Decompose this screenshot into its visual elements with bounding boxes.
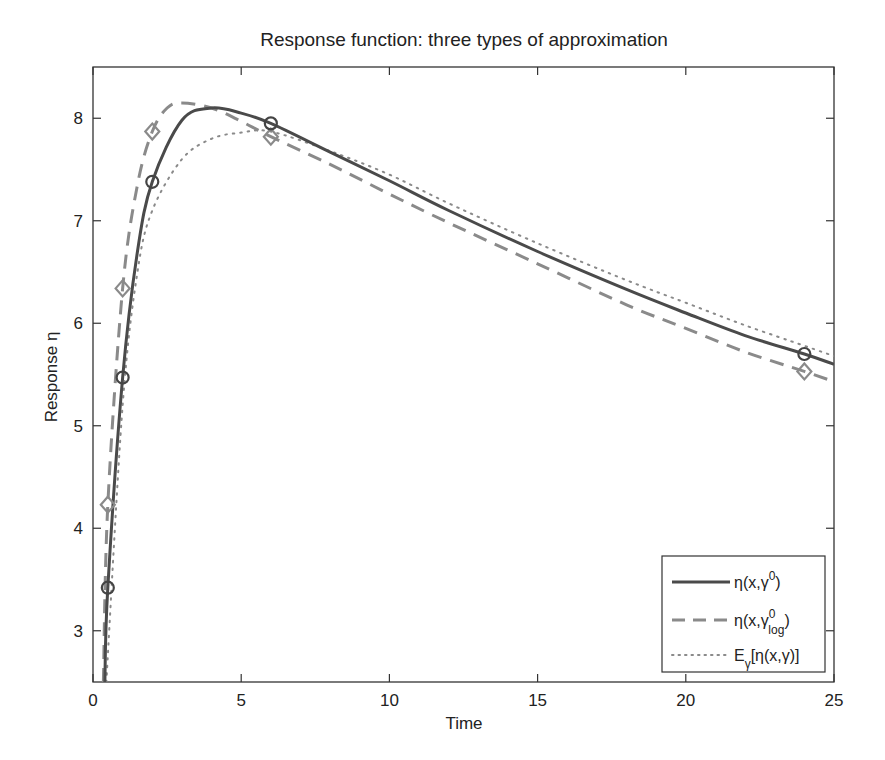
- y-tick-label: 7: [74, 212, 83, 231]
- x-tick-label: 15: [528, 691, 547, 710]
- legend: η(x,γ0)η(x,γ0log)Eγ[η(x,γ)]: [662, 556, 825, 672]
- x-tick-label: 5: [236, 691, 245, 710]
- y-tick-label: 8: [74, 109, 83, 128]
- y-tick-label: 3: [74, 622, 83, 641]
- chart-title: Response function: three types of approx…: [260, 29, 668, 50]
- x-axis-label: Time: [445, 714, 482, 733]
- x-tick-label: 25: [825, 691, 844, 710]
- y-tick-label: 6: [74, 314, 83, 333]
- y-tick-label: 5: [74, 417, 83, 436]
- x-tick-label: 0: [88, 691, 97, 710]
- y-axis-label: Response η: [42, 332, 61, 423]
- chart: Response function: three types of approx…: [0, 0, 885, 760]
- y-tick-label: 4: [74, 519, 83, 538]
- x-tick-label: 10: [380, 691, 399, 710]
- x-tick-label: 20: [676, 691, 695, 710]
